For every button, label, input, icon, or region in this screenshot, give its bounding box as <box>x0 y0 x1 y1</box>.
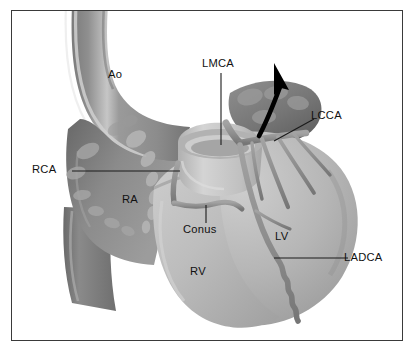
illustration-frame: Ao LMCA LCCA RCA RA Conus LV RV LADCA <box>11 10 403 341</box>
label-conus: Conus <box>183 224 217 235</box>
label-lmca: LMCA <box>202 58 234 69</box>
label-rca: RCA <box>32 164 56 175</box>
label-ladca: LADCA <box>344 252 383 263</box>
label-lcca: LCCA <box>311 110 342 121</box>
heart-anatomy-figure: Ao LMCA LCCA RCA RA Conus LV RV LADCA <box>0 0 414 352</box>
label-ra: RA <box>122 194 138 205</box>
label-rv: RV <box>190 266 206 277</box>
label-lv: LV <box>275 231 288 242</box>
label-ao: Ao <box>108 69 122 80</box>
